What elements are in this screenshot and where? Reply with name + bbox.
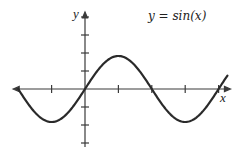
axes xyxy=(13,12,230,147)
chart-title: y = sin(x) xyxy=(147,9,207,23)
y-axis-label: y xyxy=(71,6,79,21)
x-axis-label: x xyxy=(219,90,226,105)
sine-chart: y = sin(x) y x xyxy=(0,0,244,160)
